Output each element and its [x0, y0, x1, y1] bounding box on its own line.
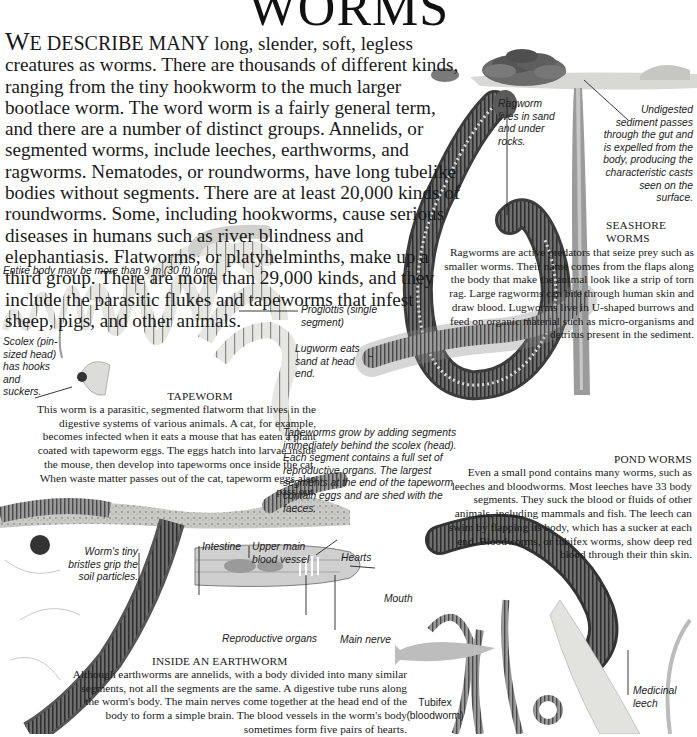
intro-lead-caps: E DESCRIBE MANY	[30, 32, 210, 54]
ragworm-label: Ragworm lives in sand and under rocks.	[498, 98, 560, 148]
intro-paragraph: WE DESCRIBE MANY long, slender, soft, le…	[5, 31, 465, 331]
main-nerve-label: Main nerve	[340, 634, 391, 647]
pond-heading: POND WORMS	[540, 453, 692, 465]
intestine-label: Intestine	[202, 541, 241, 554]
proglottis-label: Proglottis (single segment)	[301, 304, 381, 329]
seashore-text: Ragworms are active predators that seize…	[440, 246, 694, 342]
hearts-label: Hearts	[341, 552, 371, 565]
seashore-heading: SEASHORE WORMS	[606, 219, 666, 245]
intro-text: long, slender, soft, legless creatures a…	[5, 33, 460, 331]
pond-text: Even a small pond contains many worms, s…	[440, 466, 692, 562]
tapeworm-length-caption: Entire body may be more than 9 m (30 ft)…	[3, 265, 383, 278]
earthworm-text: Although earthworms are annelids, with a…	[70, 668, 407, 737]
tapeworm-heading: TAPEWORM	[120, 390, 280, 402]
leech-label: Medicinal leech	[633, 685, 683, 710]
scolex-label: Scolex (pin-sized head) has hooks and su…	[3, 336, 61, 399]
lugworm-label: Lugworm eats sand at head end.	[295, 343, 375, 381]
tubifex-label: Tubifex (bloodworm)	[395, 697, 475, 722]
bristles-label: Worm's tiny bristles grip the soil parti…	[50, 546, 138, 584]
mouth-label: Mouth	[384, 593, 413, 606]
earthworm-heading: INSIDE AN EARTHWORM	[152, 655, 352, 667]
sediment-label: Undigested sediment passes through the g…	[600, 104, 693, 205]
tapeworm-text: This worm is a parasitic, segmented flat…	[28, 403, 316, 499]
intro-lead-letter: W	[5, 27, 30, 56]
blood-vessel-label: Upper main blood vessel	[252, 541, 322, 566]
reproductive-organs-label: Reproductive organs	[222, 633, 317, 646]
